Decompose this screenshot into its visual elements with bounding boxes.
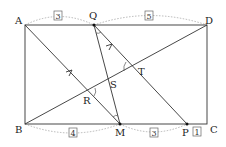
label-S: S — [110, 79, 117, 90]
label-C: C — [210, 124, 218, 135]
angle-mark-Q — [96, 32, 101, 33]
angle-mark-R — [94, 88, 96, 96]
svg-text:1: 1 — [195, 128, 200, 137]
point-dot-Q — [93, 24, 96, 27]
label-R: R — [83, 95, 91, 106]
ratio-box-PC: 1 — [193, 127, 201, 137]
label-P: P — [182, 127, 189, 138]
svg-text:4: 4 — [71, 129, 76, 138]
ratio-box-QD: 5 — [145, 11, 153, 21]
label-A: A — [14, 15, 23, 26]
ratio-box-MP: 3 — [150, 128, 158, 138]
label-D: D — [205, 15, 213, 26]
svg-text:5: 5 — [147, 12, 152, 21]
parallel-arrow-icon-QP — [106, 44, 112, 50]
line-AM — [25, 25, 120, 124]
label-B: B — [15, 124, 22, 135]
point-dot-M — [119, 123, 122, 126]
svg-text:3: 3 — [56, 12, 61, 21]
label-Q: Q — [89, 10, 97, 21]
point-dot-P — [186, 123, 189, 126]
geometry-diagram: A Q D B M P C R S T 3 5 4 3 1 — [0, 0, 226, 147]
angle-mark-M — [113, 115, 118, 117]
svg-text:3: 3 — [152, 129, 157, 138]
label-M: M — [115, 127, 125, 138]
ratio-box-AQ: 3 — [54, 11, 62, 21]
ratio-box-BM: 4 — [69, 128, 77, 138]
label-T: T — [138, 66, 145, 77]
